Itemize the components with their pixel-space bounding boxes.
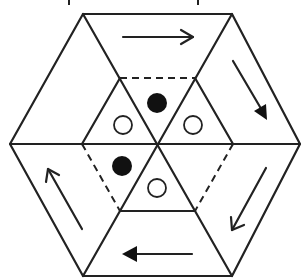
filled-dot-lower-left [112,156,132,176]
open-dot-lower-middle [148,179,166,197]
inner-edge-upper-left [82,78,120,144]
open-dot-upper-left [114,116,132,134]
arrow-left-icon [122,246,192,262]
inner-edge-lower-right-dashed [195,144,233,211]
inner-edge-upper-right [195,78,233,144]
filled-dot-top [147,93,167,113]
arrow-right-icon [123,30,193,44]
diagram-canvas [0,0,303,278]
hexagon-diagram [0,0,303,278]
open-dot-upper-right [184,116,202,134]
inner-edge-lower-left-dashed [82,144,120,211]
